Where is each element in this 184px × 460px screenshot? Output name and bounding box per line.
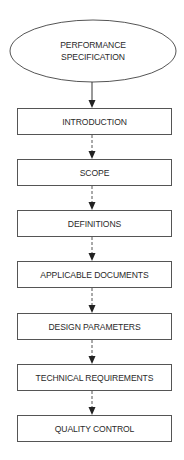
step-scope: SCOPE [17,159,172,186]
step-label: INTRODUCTION [62,117,127,127]
step-design-parameters: DESIGN PARAMETERS [17,313,172,340]
flowchart: PERFORMANCE SPECIFICATION INTRODUCTION S… [0,0,184,460]
step-technical-requirements: TECHNICAL REQUIREMENTS [17,364,172,391]
connector-dashed-4 [89,288,96,313]
step-label: DEFINITIONS [68,219,121,229]
step-label: SCOPE [80,168,110,178]
step-quality-control: QUALITY CONTROL [17,415,172,442]
start-line-2: SPECIFICATION [61,51,125,63]
step-label: TECHNICAL REQUIREMENTS [36,373,154,383]
step-label: QUALITY CONTROL [55,424,135,434]
connector-dashed-2 [89,186,96,210]
connector-dashed-1 [89,135,96,159]
connector-dashed-3 [89,237,96,261]
start-node-label: PERFORMANCE SPECIFICATION [10,20,176,82]
step-label: DESIGN PARAMETERS [48,322,140,332]
step-applicable-documents: APPLICABLE DOCUMENTS [17,261,172,288]
start-line-1: PERFORMANCE [60,39,126,51]
connector-dashed-6 [89,391,96,415]
connector-dashed-5 [89,340,96,364]
step-definitions: DEFINITIONS [17,210,172,237]
connector-solid [89,82,96,108]
step-introduction: INTRODUCTION [17,108,172,135]
step-label: APPLICABLE DOCUMENTS [40,270,148,280]
